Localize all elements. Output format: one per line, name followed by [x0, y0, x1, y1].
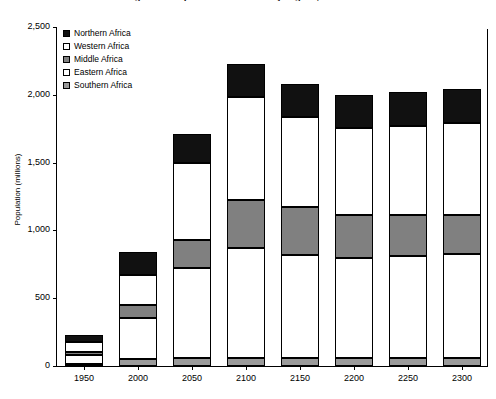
- legend-item-western-africa: Western Africa: [63, 40, 132, 53]
- bar-segment-southern-africa: [443, 358, 481, 366]
- bar-2000: [119, 252, 157, 366]
- legend-item-northern-africa: Northern Africa: [63, 27, 132, 40]
- bar-segment-northern-africa: [119, 252, 157, 275]
- bar-segment-eastern-africa: [281, 255, 319, 358]
- bar-1950: [65, 335, 103, 366]
- bar-segment-western-africa: [173, 163, 211, 240]
- bar-segment-southern-africa: [335, 358, 373, 366]
- bar-segment-western-africa: [389, 126, 427, 215]
- y-tick-mark: [53, 366, 57, 367]
- bar-segment-western-africa: [281, 117, 319, 207]
- bar-segment-western-africa: [65, 342, 103, 351]
- y-tick-label: 0: [45, 360, 50, 370]
- bar-2200: [335, 95, 373, 366]
- bar-segment-eastern-africa: [389, 256, 427, 358]
- legend-label: Eastern Africa: [74, 68, 127, 77]
- legend-item-middle-africa: Middle Africa: [63, 53, 132, 66]
- chart-title: Figure 1. Population of Africa by region…: [0, 0, 496, 1]
- bar-segment-middle-africa: [65, 352, 103, 356]
- population-stacked-bar-chart: Figure 1. Population of Africa by region…: [0, 0, 496, 399]
- white-square-icon: [63, 43, 70, 50]
- bar-segment-southern-africa: [281, 358, 319, 366]
- bar-segment-middle-africa: [443, 215, 481, 254]
- bar-segment-northern-africa: [173, 134, 211, 163]
- bar-segment-northern-africa: [65, 335, 103, 342]
- gray-square-icon: [63, 56, 70, 63]
- bar-segment-eastern-africa: [119, 318, 157, 359]
- white-square-icon: [63, 69, 70, 76]
- x-tick-label: 2300: [452, 373, 472, 383]
- bar-segment-western-africa: [119, 275, 157, 306]
- legend-item-southern-africa: Southern Africa: [63, 79, 132, 92]
- bar-2100: [227, 64, 265, 366]
- bar-segment-northern-africa: [281, 84, 319, 117]
- x-tick-label: 2050: [182, 373, 202, 383]
- legend-label: Northern Africa: [74, 29, 131, 38]
- bar-segment-southern-africa: [119, 359, 157, 366]
- bar-segment-middle-africa: [173, 240, 211, 267]
- bar-segment-eastern-africa: [227, 248, 265, 358]
- x-tick-mark: [84, 366, 85, 370]
- x-tick-mark: [138, 366, 139, 370]
- y-tick-label: 2,500: [27, 21, 50, 31]
- x-tick-label: 2000: [128, 373, 148, 383]
- bar-segment-southern-africa: [173, 358, 211, 366]
- bar-segment-eastern-africa: [443, 254, 481, 358]
- y-tick-label: 1,000: [27, 224, 50, 234]
- bar-segment-eastern-africa: [335, 258, 373, 358]
- y-tick-label: 1,500: [27, 157, 50, 167]
- bar-segment-middle-africa: [335, 215, 373, 258]
- bar-2150: [281, 84, 319, 366]
- bar-segment-southern-africa: [227, 358, 265, 366]
- light-gray-square-icon: [63, 82, 70, 89]
- legend-label: Western Africa: [74, 42, 129, 51]
- bar-2050: [173, 134, 211, 366]
- bar-segment-middle-africa: [281, 207, 319, 255]
- x-tick-label: 2200: [344, 373, 364, 383]
- bar-segment-northern-africa: [227, 64, 265, 97]
- bar-2250: [389, 92, 427, 366]
- x-tick-mark: [246, 366, 247, 370]
- bar-segment-middle-africa: [227, 200, 265, 249]
- x-tick-mark: [408, 366, 409, 370]
- x-tick-label: 2150: [290, 373, 310, 383]
- x-tick-mark: [192, 366, 193, 370]
- bar-segment-northern-africa: [389, 92, 427, 126]
- bar-segment-western-africa: [227, 97, 265, 200]
- x-tick-label: 2100: [236, 373, 256, 383]
- bar-segment-southern-africa: [389, 358, 427, 366]
- x-tick-mark: [462, 366, 463, 370]
- bar-segment-middle-africa: [119, 305, 157, 318]
- bar-segment-northern-africa: [443, 89, 481, 123]
- bar-2300: [443, 89, 481, 366]
- x-tick-mark: [300, 366, 301, 370]
- legend-label: Middle Africa: [74, 55, 123, 64]
- y-tick-label: 500: [35, 292, 50, 302]
- x-tick-mark: [354, 366, 355, 370]
- legend-item-eastern-africa: Eastern Africa: [63, 66, 132, 79]
- legend-label: Southern Africa: [74, 81, 132, 90]
- bar-segment-eastern-africa: [65, 355, 103, 364]
- bar-segment-middle-africa: [389, 215, 427, 256]
- y-tick-label: 2,000: [27, 89, 50, 99]
- y-axis-label: Population (millions): [13, 110, 22, 270]
- bar-segment-eastern-africa: [173, 268, 211, 359]
- x-tick-label: 1950: [74, 373, 94, 383]
- bar-segment-western-africa: [335, 128, 373, 215]
- chart-legend: Northern AfricaWestern AfricaMiddle Afri…: [63, 27, 132, 92]
- x-tick-label: 2250: [398, 373, 418, 383]
- black-square-icon: [63, 30, 70, 37]
- bar-segment-northern-africa: [335, 95, 373, 128]
- bar-segment-western-africa: [443, 123, 481, 215]
